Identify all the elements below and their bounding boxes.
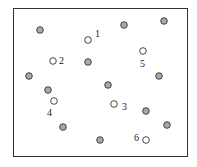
open-point-2 [50,58,57,65]
point-label-3: 3 [122,101,127,112]
filled-point [45,87,52,94]
filled-point [156,73,163,80]
filled-point [97,137,104,144]
filled-point [26,73,33,80]
open-point-1 [85,37,92,44]
filled-point [164,122,171,129]
open-point-6 [143,137,150,144]
open-point-4 [51,98,58,105]
open-point-3 [111,101,118,108]
filled-point [161,18,168,25]
filled-point [37,27,44,34]
point-label-4: 4 [47,107,52,118]
point-diagram: 123456 [0,0,197,167]
open-point-5 [140,48,147,55]
point-label-5: 5 [140,58,145,69]
point-label-2: 2 [59,55,64,66]
filled-point [121,22,128,29]
point-label-1: 1 [95,28,100,39]
filled-point [60,124,67,131]
filled-point [105,82,112,89]
filled-point [85,59,92,66]
point-label-6: 6 [134,132,139,143]
filled-point [143,108,150,115]
